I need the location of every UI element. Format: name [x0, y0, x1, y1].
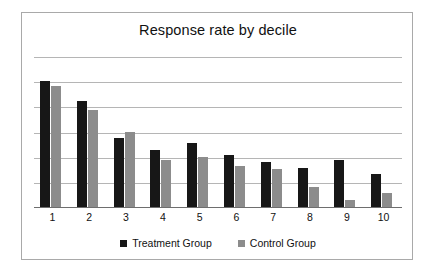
x-tick-label-8: 8: [293, 211, 327, 223]
x-axis-line: [34, 207, 402, 208]
x-tick-label-10: 10: [367, 211, 401, 223]
x-tick-label-4: 4: [146, 211, 180, 223]
x-tick-label-5: 5: [183, 211, 217, 223]
gridline: [34, 107, 402, 108]
bar-control-decile-2: [88, 110, 98, 207]
chart-figure: Response rate by decile 12345678910 Trea…: [0, 0, 433, 275]
bar-treatment-decile-7: [261, 162, 271, 207]
bar-treatment-decile-1: [40, 81, 50, 207]
x-tick-label-1: 1: [35, 211, 69, 223]
bar-treatment-decile-9: [334, 160, 344, 207]
legend-swatch-icon-treatment: [120, 240, 127, 247]
x-tick-label-7: 7: [256, 211, 290, 223]
legend-item-control: Control Group: [238, 237, 316, 249]
gridline: [34, 57, 402, 58]
bar-control-decile-7: [272, 169, 282, 207]
legend-swatch-icon-control: [238, 240, 245, 247]
chart-frame: Response rate by decile 12345678910 Trea…: [21, 12, 413, 260]
bar-treatment-decile-4: [150, 150, 160, 207]
bar-treatment-decile-6: [224, 155, 234, 207]
bar-control-decile-1: [51, 86, 61, 207]
legend-label-treatment: Treatment Group: [132, 237, 212, 249]
legend-label-control: Control Group: [250, 237, 316, 249]
gridline: [34, 82, 402, 83]
legend-item-treatment: Treatment Group: [120, 237, 212, 249]
x-tick-label-9: 9: [330, 211, 364, 223]
x-tick-label-3: 3: [109, 211, 143, 223]
bar-control-decile-5: [198, 157, 208, 207]
bar-control-decile-10: [382, 193, 392, 207]
x-tick-label-2: 2: [72, 211, 106, 223]
bar-control-decile-4: [161, 160, 171, 207]
chart-title: Response rate by decile: [22, 22, 414, 38]
bar-treatment-decile-3: [114, 138, 124, 207]
x-tick-label-6: 6: [219, 211, 253, 223]
bar-treatment-decile-2: [77, 101, 87, 207]
bar-treatment-decile-8: [298, 168, 308, 207]
chart-legend: Treatment Group Control Group: [22, 237, 414, 249]
bar-treatment-decile-5: [187, 143, 197, 207]
bar-treatment-decile-10: [371, 174, 381, 207]
plot-area: 12345678910: [34, 57, 402, 208]
bar-control-decile-6: [235, 166, 245, 208]
bar-control-decile-3: [125, 132, 135, 208]
bar-control-decile-8: [309, 187, 319, 207]
bar-control-decile-9: [345, 200, 355, 208]
